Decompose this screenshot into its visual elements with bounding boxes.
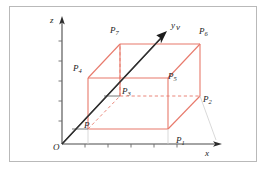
point-label-P7: P7	[110, 26, 119, 37]
vector-v-label: v	[176, 23, 180, 32]
box-edge-hidden-connect-p-p3	[88, 96, 120, 129]
z-axis-label: z	[50, 16, 54, 25]
point-label-P2-sub: 2	[209, 98, 212, 105]
point-label-P2: P2	[203, 95, 212, 106]
box-edge-connect-p4-p7	[88, 44, 120, 78]
helper-segments	[72, 96, 120, 129]
point-label-P7-sub: 7	[116, 29, 119, 36]
point-label-P3: P3	[122, 87, 131, 98]
origin-label: O	[53, 143, 60, 152]
x-axis-label: x	[205, 149, 209, 158]
point-label-P6-sub: 6	[205, 30, 208, 37]
point-label-P1-sub: 1	[182, 139, 185, 146]
point-label-P6: P6	[199, 27, 208, 38]
vector-v-line	[62, 38, 161, 144]
point-label-P: P	[84, 121, 90, 132]
point-label-P4-sub: 4	[79, 67, 82, 74]
projection-lines	[88, 96, 216, 144]
point-label-P1: P1	[176, 136, 185, 147]
vector-v-group	[62, 31, 167, 144]
point-label-P5-sub: 5	[174, 75, 177, 82]
diagram-canvas	[0, 0, 266, 173]
point-label-P5: P5	[168, 72, 177, 83]
figure-root: O x y z v P P1 P2 P3 P4 P5 P6 P7	[0, 0, 266, 173]
y-axis-label: y	[171, 21, 175, 30]
point-label-P4: P4	[73, 64, 82, 75]
box-edge-connect-p1-p2	[168, 96, 200, 129]
point-label-P-base: P	[84, 120, 90, 130]
point-label-P3-sub: 3	[128, 90, 131, 97]
